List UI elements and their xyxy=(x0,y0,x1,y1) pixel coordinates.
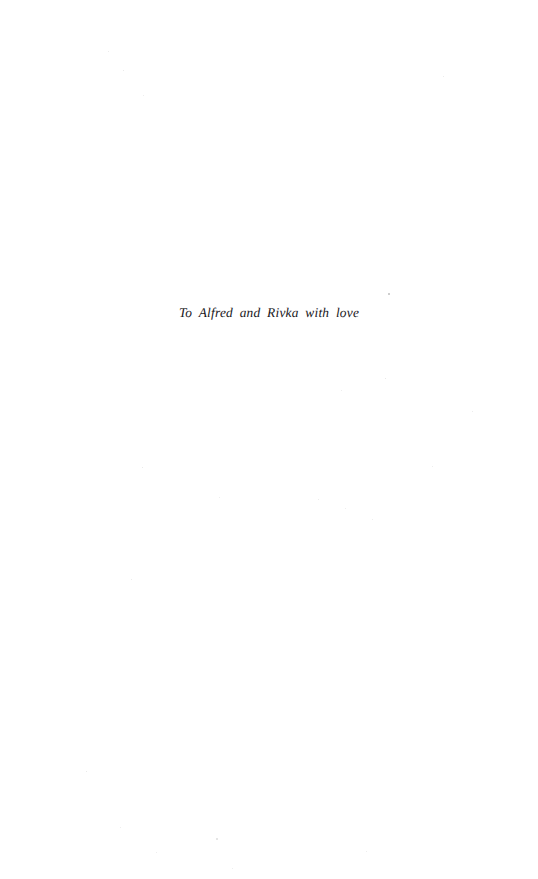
scan-speck xyxy=(120,827,121,828)
scan-speck xyxy=(385,378,386,379)
scan-speck xyxy=(219,497,220,498)
scan-speck xyxy=(443,76,444,77)
scan-speck xyxy=(142,467,143,468)
scan-speck xyxy=(216,838,218,840)
scan-speck xyxy=(472,411,473,412)
scan-speck xyxy=(86,771,87,772)
scan-speck xyxy=(318,499,319,500)
scan-speck xyxy=(366,851,367,852)
scan-speck xyxy=(372,519,373,520)
scan-speck xyxy=(123,70,124,71)
scan-speck xyxy=(341,390,342,391)
dedication-text: To Alfred and Rivka with love xyxy=(179,304,359,321)
scan-speck xyxy=(131,579,132,580)
scan-speck xyxy=(345,508,346,509)
scan-speck xyxy=(143,95,144,96)
scan-speck xyxy=(232,868,233,869)
scan-speck xyxy=(108,51,109,52)
dedication-page: To Alfred and Rivka with love xyxy=(0,0,538,879)
scan-speck xyxy=(432,466,433,467)
scan-speck xyxy=(156,852,157,853)
dedication-block: To Alfred and Rivka with love xyxy=(0,303,538,321)
scan-speck xyxy=(388,293,390,295)
